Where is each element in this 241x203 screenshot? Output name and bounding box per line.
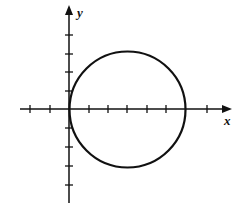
x-axis-label: x — [223, 113, 231, 128]
y-axis-arrow-icon — [65, 5, 73, 15]
coordinate-diagram: y x — [0, 0, 241, 203]
x-axis-arrow-icon — [222, 105, 232, 113]
y-axis-label: y — [75, 5, 83, 20]
